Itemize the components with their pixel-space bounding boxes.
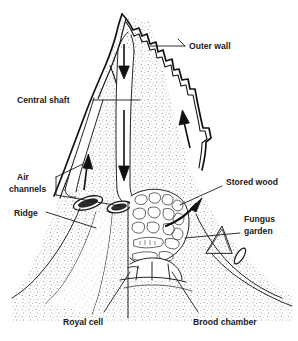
mound-cross-section-illustration: Outer wall Central shaft Air channels Ri… — [0, 0, 298, 341]
label-air-channels-line1: Air — [17, 172, 30, 182]
label-stored-wood: Stored wood — [226, 177, 278, 187]
label-royal-cell: Royal cell — [63, 317, 103, 327]
label-air-channels-line2: channels — [9, 184, 46, 194]
label-outer-wall: Outer wall — [189, 41, 231, 51]
label-ridge: Ridge — [14, 208, 38, 218]
label-central-shaft: Central shaft — [17, 95, 70, 105]
leader-outer-wall-hook — [178, 39, 185, 46]
label-fungus-garden-line1: Fungus — [244, 214, 275, 224]
label-brood-chamber: Brood chamber — [193, 317, 257, 327]
termite-mound-figure: Outer wall Central shaft Air channels Ri… — [0, 0, 298, 341]
label-fungus-garden-line2: garden — [244, 226, 273, 236]
